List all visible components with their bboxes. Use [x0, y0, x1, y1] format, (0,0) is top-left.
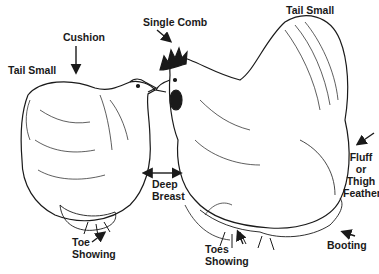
label-toe-showing: Toe Showing	[72, 236, 116, 260]
chicken-illustration	[0, 0, 379, 274]
label-tail-small-hen: Tail Small	[8, 64, 56, 76]
single-comb-arrow	[157, 30, 170, 41]
label-deep-breast: Deep Breast	[152, 178, 185, 202]
label-toes-showing: Toes Showing	[205, 243, 249, 267]
label-single-comb: Single Comb	[143, 16, 207, 28]
label-booting: Booting	[327, 239, 367, 251]
fluff-arrow	[358, 133, 374, 144]
label-cushion: Cushion	[63, 31, 105, 43]
chicken-diagram: Tail Small Cushion Single Comb Tail Smal…	[0, 0, 379, 274]
hen-drawing	[21, 79, 156, 236]
rooster-drawing	[156, 16, 349, 250]
label-tail-small-rooster: Tail Small	[286, 4, 334, 16]
label-fluff-thigh-feather: Fluff or Thigh Feather	[343, 151, 379, 199]
booting-arrow	[343, 232, 355, 236]
